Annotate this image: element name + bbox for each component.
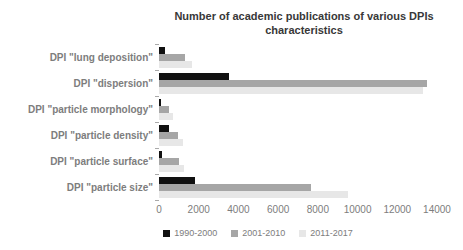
- bar-group: [159, 73, 427, 94]
- category-label: DPI "particle density": [0, 130, 159, 141]
- category-row: DPI "dispersion": [0, 70, 463, 96]
- x-axis-tick-label: 4000: [227, 204, 249, 215]
- category-row: DPI "lung deposition": [0, 44, 463, 70]
- legend-label: 2011-2017: [310, 228, 352, 238]
- x-axis-tick-label: 8000: [307, 204, 329, 215]
- category-row: DPI "particle size": [0, 174, 463, 200]
- legend-label: 2001-2010: [242, 228, 285, 238]
- bar-2011-2017: [159, 139, 183, 146]
- category-label: DPI "lung deposition": [0, 52, 159, 63]
- bar-1990-2000: [159, 151, 162, 158]
- bar-2011-2017: [159, 191, 348, 198]
- bar-1990-2000: [159, 99, 161, 106]
- x-axis-tick-label: 2000: [188, 204, 210, 215]
- bar-2011-2017: [159, 113, 173, 120]
- bar-group: [159, 151, 184, 172]
- bar-2001-2010: [159, 158, 179, 165]
- bar-group: [159, 99, 173, 120]
- bar-1990-2000: [159, 47, 165, 54]
- x-axis-tick-label: 12000: [383, 204, 411, 215]
- legend-item: 1990-2000: [163, 228, 217, 238]
- category-row: DPI "particle morphology": [0, 96, 463, 122]
- x-axis-tick-label: 10000: [344, 204, 372, 215]
- bar-group: [159, 177, 348, 198]
- bar-2001-2010: [159, 80, 427, 87]
- legend-swatch-icon: [231, 230, 238, 237]
- category-label: DPI "particle morphology": [0, 104, 159, 115]
- bar-2001-2010: [159, 132, 178, 139]
- legend-label: 1990-2000: [174, 228, 217, 238]
- legend-item: 2011-2017: [299, 228, 352, 238]
- category-row: DPI "particle density": [0, 122, 463, 148]
- category-label: DPI "dispersion": [0, 78, 159, 89]
- chart-title: Number of academic publications of vario…: [148, 9, 460, 38]
- legend-item: 2001-2010: [231, 228, 285, 238]
- bar-2001-2010: [159, 106, 169, 113]
- bar-1990-2000: [159, 177, 195, 184]
- x-axis-tick-label: 14000: [423, 204, 451, 215]
- x-axis: 02000400060008000100001200014000: [0, 204, 463, 217]
- bar-group: [159, 125, 183, 146]
- category-label: DPI "particle size": [0, 182, 159, 193]
- bar-2001-2010: [159, 184, 311, 191]
- bar-1990-2000: [159, 73, 229, 80]
- legend-swatch-icon: [299, 230, 306, 237]
- bar-2011-2017: [159, 87, 423, 94]
- bar-2001-2010: [159, 54, 185, 61]
- legend-swatch-icon: [163, 230, 170, 237]
- plot-area: DPI "lung deposition"DPI "dispersion"DPI…: [0, 44, 463, 200]
- legend: 1990-20002001-20102011-2017: [118, 228, 398, 238]
- x-axis-tick-label: 0: [156, 204, 162, 215]
- category-row: DPI "particle surface": [0, 148, 463, 174]
- category-label: DPI "particle surface": [0, 156, 159, 167]
- category-axis-tick: [155, 200, 159, 201]
- x-axis-tick-label: 6000: [267, 204, 289, 215]
- bar-2011-2017: [159, 165, 184, 172]
- bar-2011-2017: [159, 61, 192, 68]
- bar-1990-2000: [159, 125, 169, 132]
- bar-group: [159, 47, 192, 68]
